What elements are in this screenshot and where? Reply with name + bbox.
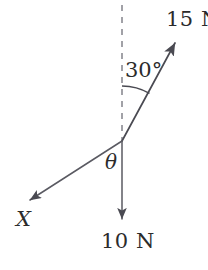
force-diagram-canvas: 15 N 30° θ X 10 N [0,0,208,270]
label-force-10n: 10 N [101,231,155,252]
angle-arc-30 [122,86,150,93]
label-angle-theta: θ [105,152,117,172]
label-angle-30: 30° [125,60,162,81]
label-force-15n: 15 N [166,9,208,30]
label-force-x: X [16,209,31,230]
